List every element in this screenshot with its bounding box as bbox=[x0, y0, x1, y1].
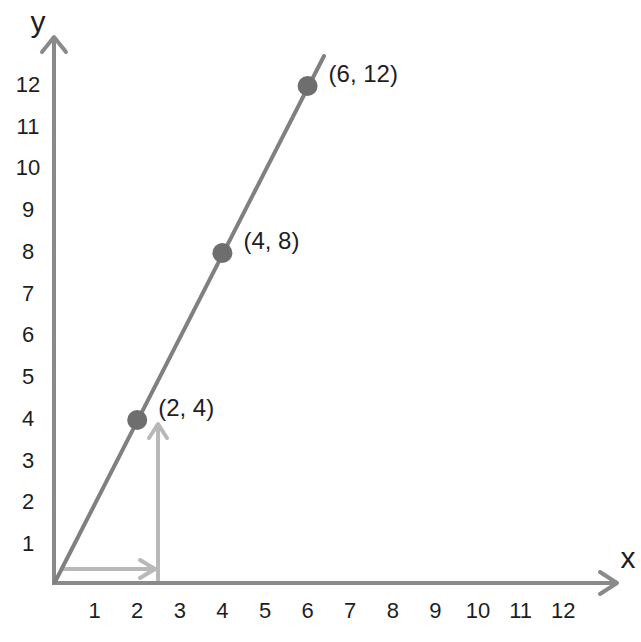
y-tick-label: 1 bbox=[22, 531, 34, 556]
y-axis-label: y bbox=[31, 5, 46, 38]
y-tick-label: 4 bbox=[22, 406, 34, 431]
data-point-label: (2, 4) bbox=[158, 394, 214, 421]
data-points: (2, 4)(4, 8)(6, 12) bbox=[127, 60, 398, 430]
y-tick-label: 3 bbox=[22, 448, 34, 473]
x-tick-label: 9 bbox=[429, 598, 441, 623]
y-tick-label: 8 bbox=[22, 239, 34, 264]
x-tick-label: 4 bbox=[216, 598, 228, 623]
y-tick-label: 12 bbox=[16, 72, 40, 97]
data-point-label: (4, 8) bbox=[243, 227, 299, 254]
x-tick-label: 11 bbox=[509, 598, 532, 623]
x-tick-labels: 123456789101112 bbox=[88, 598, 575, 623]
data-point-marker bbox=[298, 76, 318, 96]
x-tick-label: 5 bbox=[259, 598, 271, 623]
x-tick-label: 10 bbox=[466, 598, 490, 623]
axes bbox=[42, 37, 618, 594]
y-tick-label: 10 bbox=[16, 155, 40, 180]
x-tick-label: 3 bbox=[174, 598, 186, 623]
x-tick-label: 1 bbox=[88, 598, 100, 623]
y-tick-label: 7 bbox=[22, 281, 34, 306]
x-tick-label: 7 bbox=[344, 598, 356, 623]
x-tick-label: 8 bbox=[387, 598, 399, 623]
y-tick-label: 5 bbox=[22, 364, 34, 389]
data-point-marker bbox=[127, 410, 147, 430]
y-tick-label: 2 bbox=[22, 489, 34, 514]
x-tick-label: 2 bbox=[131, 598, 143, 623]
x-tick-label: 6 bbox=[301, 598, 313, 623]
x-axis-label: x bbox=[621, 541, 636, 574]
y-tick-label: 6 bbox=[22, 322, 34, 347]
data-line bbox=[55, 56, 324, 582]
chart-canvas: y x 123456789101112 123456789101112 (2, … bbox=[0, 0, 641, 642]
data-point-label: (6, 12) bbox=[329, 60, 398, 87]
y-tick-label: 9 bbox=[22, 197, 34, 222]
x-tick-label: 12 bbox=[551, 598, 575, 623]
y-tick-label: 11 bbox=[17, 114, 40, 139]
y-tick-labels: 123456789101112 bbox=[16, 72, 40, 556]
helper-arrows bbox=[62, 424, 167, 581]
data-point-marker bbox=[212, 243, 232, 263]
